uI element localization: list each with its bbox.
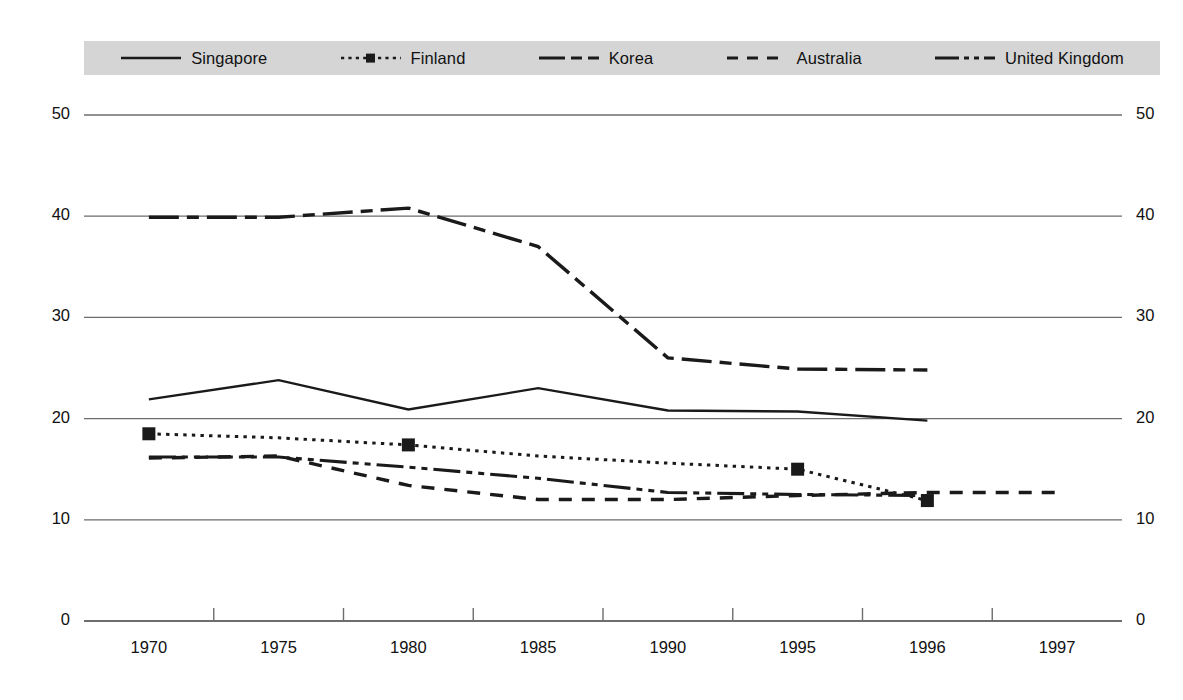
x-axis-label-1995: 1995 (753, 638, 843, 657)
y-axis-label-left-50: 50 (36, 104, 70, 123)
y-axis-label-left-10: 10 (36, 509, 70, 528)
y-axis-label-right-40: 40 (1136, 205, 1176, 224)
series-marker-finland[interactable] (402, 438, 415, 451)
series-line-united-kingdom[interactable] (149, 457, 928, 495)
y-axis-label-right-10: 10 (1136, 509, 1176, 528)
y-axis-label-right-50: 50 (1136, 104, 1176, 123)
y-axis-label-left-30: 30 (36, 306, 70, 325)
x-axis-label-1990: 1990 (623, 638, 713, 657)
plot-area (0, 0, 1183, 700)
y-axis-label-right-0: 0 (1136, 610, 1176, 629)
series-marker-finland[interactable] (791, 463, 804, 476)
x-axis-label-1985: 1985 (493, 638, 583, 657)
y-axis-label-left-20: 20 (36, 408, 70, 427)
line-chart: Singapore Finland Korea Australia (0, 0, 1183, 700)
series-line-australia[interactable] (149, 456, 1057, 500)
series-line-finland[interactable] (149, 434, 928, 501)
series-line-singapore[interactable] (149, 380, 928, 420)
x-axis-label-1996: 1996 (882, 638, 972, 657)
series-marker-finland[interactable] (142, 427, 155, 440)
y-axis-label-right-20: 20 (1136, 408, 1176, 427)
x-axis-label-1970: 1970 (104, 638, 194, 657)
y-axis-label-left-0: 0 (36, 610, 70, 629)
x-axis-label-1975: 1975 (234, 638, 324, 657)
x-axis-label-1997: 1997 (1012, 638, 1102, 657)
y-axis-label-left-40: 40 (36, 205, 70, 224)
x-axis-label-1980: 1980 (363, 638, 453, 657)
series-line-korea[interactable] (149, 208, 928, 370)
y-axis-label-right-30: 30 (1136, 306, 1176, 325)
